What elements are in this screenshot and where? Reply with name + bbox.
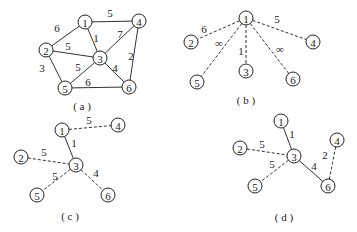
node-label: 3 bbox=[291, 151, 297, 163]
node-1: 1 bbox=[78, 15, 92, 29]
edge-weight-5-6: 6 bbox=[85, 76, 91, 88]
edge-3-5 bbox=[70, 63, 94, 84]
node-label: 2 bbox=[188, 37, 194, 49]
node-label: 4 bbox=[115, 120, 121, 132]
edge-weight-1-2: 6 bbox=[201, 23, 207, 35]
edge-4-6 bbox=[329, 147, 335, 179]
node-label: 5 bbox=[34, 190, 40, 202]
edge-2-5 bbox=[49, 56, 62, 81]
node-label: 6 bbox=[290, 74, 296, 86]
node-6: 6 bbox=[101, 188, 115, 202]
edge-1-5 bbox=[201, 24, 241, 77]
edge-weight-3-6: 4 bbox=[93, 167, 99, 179]
node-label: 1 bbox=[59, 125, 65, 137]
panel-d-final-tree: 15542123456( d ) bbox=[233, 114, 344, 224]
edge-weight-1-6: ∞ bbox=[276, 43, 284, 55]
edge-5-6 bbox=[72, 87, 122, 88]
edge-weight-1-3: 1 bbox=[71, 137, 77, 149]
edge-weight-3-6: 4 bbox=[112, 62, 118, 74]
node-label: 5 bbox=[252, 181, 258, 193]
edge-weight-1-4: 5 bbox=[274, 13, 280, 25]
node-label: 1 bbox=[278, 116, 284, 128]
edge-weight-1-3: 1 bbox=[93, 32, 99, 44]
node-label: 4 bbox=[310, 37, 316, 49]
node-label: 2 bbox=[237, 143, 243, 155]
edge-2-3 bbox=[247, 149, 287, 155]
node-label: 6 bbox=[325, 181, 331, 193]
node-6: 6 bbox=[321, 179, 335, 193]
node-label: 6 bbox=[105, 190, 111, 202]
node-label: 5 bbox=[194, 77, 200, 89]
node-1: 1 bbox=[55, 123, 69, 137]
panel-caption: ( c ) bbox=[61, 210, 79, 223]
edge-weight-2-5: 3 bbox=[39, 62, 45, 74]
node-label: 3 bbox=[97, 53, 103, 65]
edges bbox=[28, 126, 111, 191]
node-4: 4 bbox=[111, 118, 125, 132]
edge-weight-3-6: 4 bbox=[311, 160, 317, 172]
node-label: 1 bbox=[82, 17, 88, 29]
graph-figure: 6515375426123456( a ) 651∞∞123456( b ) 5… bbox=[0, 0, 357, 232]
edge-weight-4-6: 2 bbox=[322, 149, 328, 161]
panel-caption: ( a ) bbox=[73, 100, 91, 113]
edge-weight-2-3: 5 bbox=[65, 40, 71, 52]
node-label: 3 bbox=[73, 160, 79, 172]
node-3: 3 bbox=[239, 64, 253, 78]
node-2: 2 bbox=[233, 141, 247, 155]
panel-a-full-graph: 6515375426123456( a ) bbox=[39, 7, 146, 113]
node-5: 5 bbox=[248, 179, 262, 193]
edge-1-4 bbox=[69, 126, 111, 130]
edge-weight-4-6: 2 bbox=[128, 50, 134, 62]
nodes: 123456 bbox=[14, 118, 125, 202]
node-5: 5 bbox=[58, 81, 72, 95]
node-5: 5 bbox=[190, 75, 204, 89]
node-4: 4 bbox=[132, 14, 146, 28]
node-2: 2 bbox=[14, 150, 28, 164]
edge-weight-1-3: 1 bbox=[238, 45, 244, 57]
node-1: 1 bbox=[274, 114, 288, 128]
node-label: 4 bbox=[136, 16, 142, 28]
graph-figure-svg: 6515375426123456( a ) 651∞∞123456( b ) 5… bbox=[0, 0, 357, 232]
panel-b-initial-step: 651∞∞123456( b ) bbox=[184, 11, 320, 107]
edge-2-3 bbox=[53, 51, 93, 57]
node-label: 5 bbox=[62, 83, 68, 95]
edge-weight-3-5: 5 bbox=[75, 61, 81, 73]
node-3: 3 bbox=[69, 158, 83, 172]
node-1: 1 bbox=[239, 11, 253, 25]
node-label: 6 bbox=[126, 82, 132, 94]
edge-weight-1-3: 1 bbox=[289, 128, 295, 140]
edge-weight-3-4: 7 bbox=[117, 28, 123, 40]
node-4: 4 bbox=[306, 35, 320, 49]
panel-c-intermediate-step: 51554123456( c ) bbox=[14, 114, 125, 223]
node-2: 2 bbox=[184, 35, 198, 49]
edge-weight-2-3: 5 bbox=[259, 138, 265, 150]
node-label: 1 bbox=[243, 13, 249, 25]
node-label: 4 bbox=[334, 135, 340, 147]
node-label: 2 bbox=[18, 152, 24, 164]
node-5: 5 bbox=[30, 188, 44, 202]
node-6: 6 bbox=[286, 72, 300, 86]
edge-3-6 bbox=[81, 170, 103, 190]
edge-2-3 bbox=[28, 158, 69, 164]
panel-caption: ( d ) bbox=[275, 211, 294, 224]
edge-weight-2-3: 5 bbox=[41, 146, 47, 158]
node-label: 3 bbox=[243, 66, 249, 78]
panel-caption: ( b ) bbox=[237, 94, 256, 107]
edge-weight-1-5: ∞ bbox=[215, 37, 223, 49]
node-3: 3 bbox=[287, 149, 301, 163]
node-2: 2 bbox=[39, 43, 53, 57]
edge-weight-3-5: 5 bbox=[52, 170, 58, 182]
edge-weight-1-4: 5 bbox=[86, 114, 92, 126]
edge-weight-1-4: 5 bbox=[107, 7, 113, 19]
edge-weights: 51554 bbox=[41, 114, 99, 182]
edge-weight-3-5: 5 bbox=[269, 158, 275, 170]
edge-1-4 bbox=[92, 21, 132, 22]
node-6: 6 bbox=[122, 80, 136, 94]
edge-weight-1-2: 6 bbox=[54, 22, 60, 34]
node-4: 4 bbox=[330, 133, 344, 147]
node-3: 3 bbox=[93, 51, 107, 65]
node-label: 2 bbox=[43, 45, 49, 57]
